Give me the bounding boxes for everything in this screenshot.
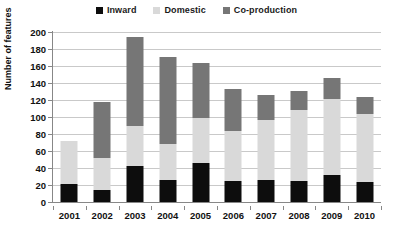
y-tick-mark	[48, 151, 52, 152]
bar-stack[interactable]	[225, 89, 242, 202]
bar-group[interactable]	[250, 32, 283, 202]
bar-segment[interactable]	[126, 126, 143, 166]
x-tick-label: 2009	[321, 210, 342, 221]
y-tick-label: 60	[35, 146, 46, 157]
bar-stack[interactable]	[356, 97, 373, 202]
bar-segment[interactable]	[258, 180, 275, 202]
bar-segment[interactable]	[290, 181, 307, 202]
bar-segment[interactable]	[225, 181, 242, 202]
bar-group[interactable]	[217, 32, 250, 202]
bar-group[interactable]	[315, 32, 348, 202]
y-axis-title: Number of features	[3, 76, 13, 90]
x-tick-mark	[250, 206, 251, 210]
bar-segment[interactable]	[126, 166, 143, 202]
y-tick-label: 140	[30, 78, 46, 89]
x-tick-label: 2007	[256, 210, 277, 221]
bar-stack[interactable]	[94, 102, 111, 202]
legend-label: Domestic	[164, 5, 205, 15]
y-tick-mark	[48, 202, 52, 203]
bar-segment[interactable]	[159, 180, 176, 202]
y-tick-mark	[48, 66, 52, 67]
bar-stack[interactable]	[258, 95, 275, 202]
bar-group[interactable]	[283, 32, 316, 202]
y-tick-label: 180	[30, 44, 46, 55]
y-tick-mark	[48, 134, 52, 135]
y-tick-mark	[48, 100, 52, 101]
bar-segment[interactable]	[192, 63, 209, 117]
bar-stack[interactable]	[323, 78, 340, 202]
y-tick-mark	[48, 32, 52, 33]
bar-segment[interactable]	[94, 102, 111, 158]
bar-segment[interactable]	[159, 57, 176, 145]
bar-group[interactable]	[151, 32, 184, 202]
x-tick-mark	[315, 206, 316, 210]
bar-group[interactable]	[86, 32, 119, 202]
bar-group[interactable]	[119, 32, 152, 202]
bar-segment[interactable]	[323, 99, 340, 175]
legend-entry[interactable]: Domestic	[153, 5, 205, 15]
bar-stack[interactable]	[61, 141, 78, 202]
x-tick-mark	[119, 206, 120, 210]
x-tick-mark	[217, 206, 218, 210]
bar-group[interactable]	[348, 32, 381, 202]
y-tick-label: 200	[30, 27, 46, 38]
y-tick-mark	[48, 49, 52, 50]
y-tick-mark	[48, 117, 52, 118]
bar-segment[interactable]	[61, 184, 78, 202]
x-tick-mark	[53, 206, 54, 210]
x-tick-mark	[86, 206, 87, 210]
x-tick-mark	[348, 206, 349, 210]
square-marker	[96, 7, 103, 14]
bar-group[interactable]	[53, 32, 86, 202]
bar-segment[interactable]	[126, 37, 143, 126]
y-tick-label: 40	[35, 163, 46, 174]
bar-segment[interactable]	[192, 118, 209, 163]
bar-segment[interactable]	[225, 89, 242, 131]
bar-segment[interactable]	[323, 78, 340, 99]
x-tick-label: 2001	[59, 210, 80, 221]
x-tick-mark	[184, 206, 185, 210]
x-tick-label: 2002	[92, 210, 113, 221]
bar-segment[interactable]	[94, 190, 111, 202]
bar-segment[interactable]	[290, 110, 307, 181]
bar-segment[interactable]	[356, 182, 373, 202]
bar-stack[interactable]	[159, 57, 176, 202]
bar-stack[interactable]	[126, 37, 143, 202]
chart-legend: InwardDomesticCo-production	[0, 5, 393, 15]
y-tick-label: 0	[41, 197, 46, 208]
y-tick-label: 20	[35, 180, 46, 191]
y-tick-label: 120	[30, 95, 46, 106]
legend-entry[interactable]: Inward	[96, 5, 137, 15]
square-marker	[223, 7, 230, 14]
bar-segment[interactable]	[356, 97, 373, 114]
x-tick-label: 2003	[124, 210, 145, 221]
bar-segment[interactable]	[356, 114, 373, 182]
y-tick-mark	[48, 185, 52, 186]
bar-segment[interactable]	[159, 144, 176, 180]
bar-segment[interactable]	[192, 163, 209, 202]
square-marker	[153, 7, 160, 14]
bar-segment[interactable]	[290, 91, 307, 111]
legend-entry[interactable]: Co-production	[223, 5, 297, 15]
bar-segment[interactable]	[258, 120, 275, 180]
y-tick-mark	[48, 83, 52, 84]
bar-segment[interactable]	[258, 95, 275, 120]
bar-stack[interactable]	[192, 63, 209, 202]
y-tick-label: 100	[30, 112, 46, 123]
y-tick-label: 80	[35, 129, 46, 140]
y-tick-label: 160	[30, 61, 46, 72]
bar-group[interactable]	[184, 32, 217, 202]
x-tick-mark	[151, 206, 152, 210]
bar-stack[interactable]	[290, 91, 307, 202]
bar-segment[interactable]	[225, 131, 242, 181]
x-tick-label: 2008	[288, 210, 309, 221]
legend-label: Co-production	[234, 5, 297, 15]
x-tick-label: 2005	[190, 210, 211, 221]
x-axis-labels: 2001200220032004200520062007200820092010	[53, 206, 381, 222]
stacked-bar-chart: InwardDomesticCo-production Number of fe…	[0, 0, 393, 236]
bar-segment[interactable]	[94, 158, 111, 190]
bar-segment[interactable]	[61, 141, 78, 184]
bar-segment[interactable]	[323, 175, 340, 202]
legend-label: Inward	[107, 5, 137, 15]
x-tick-mark	[381, 206, 382, 210]
